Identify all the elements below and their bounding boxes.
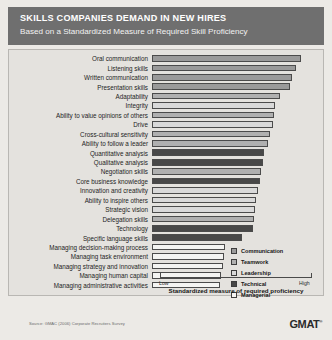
page-subtitle: Based on a Standardized Measure of Requi… [20, 26, 324, 37]
bar [152, 187, 258, 194]
legend-swatch-icon [231, 259, 237, 265]
bar-track [152, 92, 323, 101]
bar-track [152, 120, 323, 129]
bar [152, 234, 242, 241]
bar [152, 121, 273, 128]
bar-category-label: Written communication [9, 74, 152, 81]
bar-category-label: Negotiation skills [9, 168, 152, 175]
bar-row: Written communication [9, 73, 323, 82]
bar-row: Negotiation skills [9, 167, 323, 176]
bar-row: Ability to follow a leader [9, 139, 323, 148]
bar-category-label: Listening skills [9, 65, 152, 72]
bar-category-label: Strategic vision [9, 206, 152, 213]
bar-row: Presentation skills [9, 82, 323, 91]
bar-row: Qualitative analysis [9, 158, 323, 167]
bar-track [152, 130, 323, 139]
bar-category-label: Cross-cultural sensitivity [9, 131, 152, 138]
bar-track [152, 63, 323, 72]
bar-track [152, 54, 323, 63]
chart-panel: Oral communicationListening skillsWritte… [8, 49, 324, 296]
bar-category-label: Ability to inspire others [9, 197, 152, 204]
bar [152, 263, 223, 270]
bar-category-label: Specific language skills [9, 235, 152, 242]
bar [152, 178, 260, 185]
bar [152, 149, 264, 156]
legend-swatch-icon [231, 248, 237, 254]
bar-category-label: Qualitative analysis [9, 159, 152, 166]
gmat-logo-text: GMAT [289, 318, 319, 330]
bar-category-label: Core business knowledge [9, 178, 152, 185]
bar [152, 55, 301, 62]
bar [152, 131, 270, 138]
bar-row: Integrity [9, 101, 323, 110]
bar-category-label: Oral communication [9, 55, 152, 62]
bar-row: Drive [9, 120, 323, 129]
legend-label: Communication [241, 248, 283, 254]
bar-row: Quantitative analysis [9, 148, 323, 157]
bar-row: Ability to inspire others [9, 196, 323, 205]
bar [152, 159, 263, 166]
bar-row: Adaptability [9, 92, 323, 101]
bar-category-label: Integrity [9, 102, 152, 109]
bar-category-label: Adaptability [9, 93, 152, 100]
bar [152, 253, 224, 260]
registered-mark-icon: ® [319, 319, 322, 324]
page-title: SKILLS COMPANIES DEMAND IN NEW HIRES [20, 13, 324, 24]
x-axis-line [160, 277, 312, 278]
bar-track [152, 167, 323, 176]
bar-track [152, 177, 323, 186]
bar-row: Innovation and creativity [9, 186, 323, 195]
x-axis-title: Standardized measure of required profici… [160, 287, 312, 294]
bar-row: Oral communication [9, 54, 323, 63]
legend-label: Leadership [241, 270, 271, 276]
bar-track [152, 196, 323, 205]
source-note: Source: GMAC (2006) Corporate Recruiters… [29, 321, 125, 326]
bar [152, 83, 290, 90]
bar-category-label: Ability to value opinions of others [9, 112, 152, 119]
bar [152, 216, 254, 223]
bar [152, 168, 261, 175]
bar-track [152, 205, 323, 214]
bar-row: Core business knowledge [9, 177, 323, 186]
legend-item: Teamwork [231, 257, 319, 267]
bar-row: Technology [9, 224, 323, 233]
bar [152, 102, 275, 109]
bar-category-label: Drive [9, 121, 152, 128]
bar [152, 140, 268, 147]
bar-row: Delegation skills [9, 214, 323, 223]
bar-row: Specific language skills [9, 233, 323, 242]
bar-track [152, 214, 323, 223]
bar [152, 74, 292, 81]
bar-row: Cross-cultural sensitivity [9, 130, 323, 139]
legend-label: Teamwork [241, 259, 268, 265]
plot-area: Oral communicationListening skillsWritte… [9, 50, 323, 295]
legend-item: Communication [231, 246, 319, 256]
gmat-logo: GMAT® [289, 318, 322, 330]
bar-category-label: Quantitative analysis [9, 150, 152, 157]
bar-track [152, 233, 323, 242]
bar-category-label: Technology [9, 225, 152, 232]
bar-track [152, 82, 323, 91]
bar-track [152, 224, 323, 233]
bar-row: Listening skills [9, 63, 323, 72]
bar-track [152, 158, 323, 167]
bar-category-label: Managing administrative activities [9, 282, 152, 289]
bar-track [152, 139, 323, 148]
bar-row: Ability to value opinions of others [9, 111, 323, 120]
bar-category-label: Presentation skills [9, 84, 152, 91]
bar [152, 65, 296, 72]
bar-track [152, 148, 323, 157]
bar [152, 225, 253, 232]
bar-category-label: Innovation and creativity [9, 187, 152, 194]
bar [152, 112, 274, 119]
legend-swatch-icon [231, 270, 237, 276]
bar-category-label: Managing decision-making process [9, 244, 152, 251]
bar-row: Strategic vision [9, 205, 323, 214]
bar [152, 244, 225, 251]
infographic-poster: SKILLS COMPANIES DEMAND IN NEW HIRES Bas… [0, 0, 332, 340]
bar-track [152, 73, 323, 82]
bar [152, 93, 280, 100]
bar-category-label: Ability to follow a leader [9, 140, 152, 147]
bar [152, 206, 255, 213]
bar-category-label: Managing human capital [9, 272, 152, 279]
